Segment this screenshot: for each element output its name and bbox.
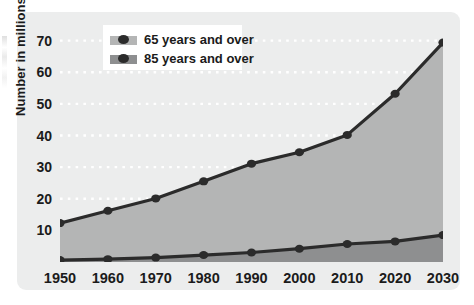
x-tick-label: 1960 [81, 271, 135, 286]
data-point-marker [343, 240, 352, 248]
data-point-marker [391, 90, 400, 98]
data-point-marker [103, 207, 112, 215]
y-tick-label: 10 [18, 223, 52, 237]
x-tick-label: 1980 [177, 271, 231, 286]
data-point-marker [199, 251, 208, 259]
x-tick-label: 2020 [368, 271, 422, 286]
area-65-years-and-over [60, 43, 443, 262]
x-tick-label: 1950 [33, 271, 87, 286]
data-point-marker [295, 245, 304, 253]
data-point-marker [247, 160, 256, 168]
legend-swatch-icon-85 [110, 53, 137, 65]
scan-artifact [2, 36, 7, 88]
legend-label-85: 85 years and over [144, 52, 254, 65]
data-point-marker [391, 237, 400, 245]
chart-container: 10203040506070 1950196019701980199020002… [0, 0, 474, 305]
y-axis-title: Number in millions [13, 0, 28, 116]
x-tick-label: 1990 [225, 271, 279, 286]
legend-swatch-icon-65 [110, 34, 137, 46]
x-tick-label: 2000 [272, 271, 326, 286]
data-point-marker [343, 131, 352, 139]
data-point-marker [199, 177, 208, 185]
y-tick-label: 20 [18, 192, 52, 206]
x-tick-label: 2010 [320, 271, 374, 286]
y-tick-label: 30 [18, 160, 52, 174]
y-tick-label: 40 [18, 129, 52, 143]
data-point-marker [295, 148, 304, 156]
x-tick-label: 1970 [129, 271, 183, 286]
x-tick-label: 2030 [416, 271, 470, 286]
legend-item-65-years-and-over[interactable]: 65 years and over [110, 30, 236, 49]
data-point-marker [151, 254, 160, 262]
legend-label-65: 65 years and over [144, 33, 254, 46]
legend-item-85-years-and-over[interactable]: 85 years and over [110, 49, 236, 68]
data-point-marker [151, 194, 160, 202]
data-point-marker [247, 249, 256, 257]
chart-legend: 65 years and over 85 years and over [103, 25, 242, 70]
